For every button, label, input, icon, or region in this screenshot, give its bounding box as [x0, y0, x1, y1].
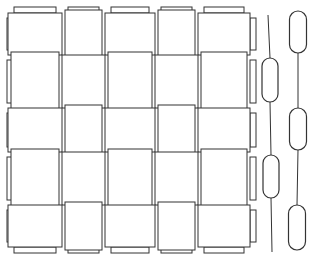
weft-over-cell: [155, 55, 198, 108]
warp-over-cell: [158, 105, 195, 155]
warp-yarn-end-bottom: [14, 247, 56, 253]
cross-section-b-yarn: [289, 205, 306, 250]
weft-yarn-end-right: [250, 60, 256, 103]
weft-yarn-end-right: [250, 210, 256, 242]
weft-over-cell: [62, 55, 105, 108]
weave-diagram: [0, 0, 314, 267]
weave-grid: [7, 7, 256, 253]
weft-yarn-end-right: [250, 157, 256, 200]
warp-over-cell: [11, 52, 59, 111]
warp-yarn-end-bottom: [204, 247, 244, 253]
weft-yarn-end-right: [250, 18, 256, 50]
weft-over-cell: [198, 205, 250, 247]
warp-over-cell: [158, 202, 195, 250]
weft-over-cell: [8, 13, 62, 55]
weft-over-cell: [8, 108, 62, 152]
weft-over-cell: [198, 108, 250, 152]
warp-over-cell: [158, 10, 195, 58]
warp-over-cell: [11, 149, 59, 208]
cross-section-a-yarn: [262, 58, 278, 102]
weft-yarn-end-right: [250, 113, 256, 147]
weft-over-cell: [105, 13, 155, 55]
cross-section-a-strand: [268, 15, 272, 252]
cross-section-b-yarn: [290, 108, 307, 150]
warp-yarn-end-bottom: [111, 247, 149, 253]
weft-over-cell: [62, 152, 105, 205]
weft-over-cell: [105, 108, 155, 152]
warp-over-cell: [65, 10, 102, 58]
weft-over-cell: [198, 13, 250, 55]
cross-section-a-yarn: [263, 155, 279, 198]
weft-over-cell: [105, 205, 155, 247]
warp-yarn-end-top: [14, 7, 56, 13]
warp-over-cell: [65, 105, 102, 155]
warp-yarn-end-top: [111, 7, 149, 13]
warp-over-cell: [201, 149, 247, 208]
warp-over-cell: [201, 52, 247, 111]
weft-over-cell: [155, 152, 198, 205]
warp-over-cell: [65, 202, 102, 250]
warp-yarn-end-top: [204, 7, 244, 13]
weft-over-cell: [8, 205, 62, 247]
warp-over-cell: [108, 149, 152, 208]
cross-section-b-yarn: [290, 11, 307, 53]
warp-over-cell: [108, 52, 152, 111]
cross-sections: [262, 11, 307, 252]
